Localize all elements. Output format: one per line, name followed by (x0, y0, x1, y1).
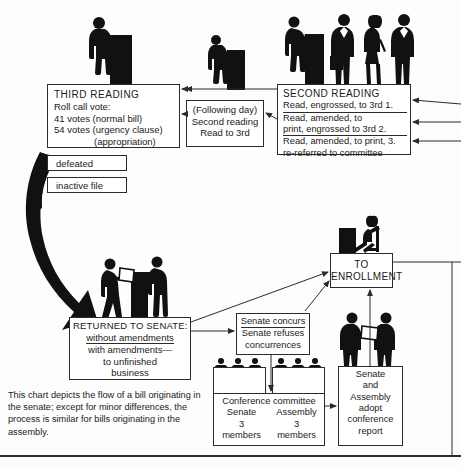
returned-to-senate-title: RETURNED TO SENATE: (70, 320, 190, 332)
third-reading-line3: 54 votes (urgency clause) (54, 124, 175, 136)
to-enrollment-line2: ENROLLMENT (331, 271, 392, 283)
adopt-report-line3: Assembly (339, 392, 402, 403)
second-reading-item2a: Read, amended, to (283, 113, 407, 124)
second-reading-item3b: re-referred to committee (283, 148, 407, 159)
second-reading-item2b: print, engrossed to 3rd 2. (283, 124, 407, 136)
following-day-line2: Second reading (187, 116, 263, 128)
conference-senate-chamber: Senate (214, 407, 269, 418)
bottom-divider (0, 455, 461, 457)
podium-speaker-silhouette (89, 17, 132, 84)
to-enrollment-line1: TO (331, 259, 392, 271)
second-reading-item3a: Read, amended, to print, 3. (283, 136, 407, 147)
returned-to-senate-line2: with amendments— (70, 344, 190, 356)
conference-assembly-column: Assembly 3 members (269, 407, 324, 441)
adopt-report-line6: report (339, 426, 402, 437)
podium-speaker-silhouette-center (208, 35, 245, 90)
following-day-box: (Following day) Second reading Read to 3… (186, 100, 264, 147)
following-day-line3: Read to 3rd (187, 127, 263, 139)
senate-concurrence-box: Senate concurs Senate refuses concurrenc… (236, 313, 310, 355)
conference-committee-title: Conference committee (214, 396, 324, 407)
returned-to-senate-line1: without amendments (86, 332, 174, 345)
handshake-pair-silhouette (340, 313, 395, 367)
defeated-box: defeated (47, 155, 127, 171)
conference-senate-count: 3 (214, 419, 269, 430)
senate-refuses-line2: Senate refuses (237, 328, 309, 339)
standing-legislators-silhouette (285, 14, 414, 84)
conference-committee-box: Conference committee Senate 3 members As… (213, 393, 325, 446)
second-reading-box: SECOND READING Read, engrossed, to 3rd 1… (277, 84, 411, 155)
inactive-file-box: inactive file (47, 177, 127, 193)
to-enrollment-box: TO ENROLLMENT (330, 253, 393, 288)
following-day-line1: (Following day) (187, 104, 263, 116)
adopt-report-line1: Senate (339, 369, 402, 380)
conference-assembly-chamber: Assembly (269, 407, 324, 418)
adopt-report-line4: adopt (339, 403, 402, 414)
adopt-conference-report-box: Senate and Assembly adopt conference rep… (338, 366, 403, 446)
third-reading-line2: 41 votes (normal bill) (54, 113, 175, 125)
returned-to-senate-line4: business (70, 367, 190, 379)
inactive-file-label: inactive file (56, 180, 103, 191)
concurrences-line3: concurrences (237, 340, 309, 351)
conference-senate-column: Senate 3 members (214, 407, 269, 441)
conference-senate-pedestal (213, 367, 266, 396)
third-reading-title: THIRD READING (54, 89, 175, 101)
second-reading-item1: Read, engrossed, to 3rd 1. (283, 100, 407, 112)
chart-caption: This chart depicts the flow of a bill or… (8, 389, 214, 438)
defeated-label: defeated (56, 158, 93, 169)
senate-concurs-line1: Senate concurs (241, 316, 306, 328)
clerk-at-desk-silhouette (339, 216, 380, 253)
second-reading-title: SECOND READING (283, 88, 407, 100)
conference-assembly-pedestal (272, 367, 325, 396)
adopt-report-line2: and (339, 380, 402, 391)
flowchart-page: THIRD READING Roll call vote: 41 votes (… (0, 0, 461, 468)
conference-senate-unit: members (214, 430, 269, 441)
conference-assembly-count: 3 (269, 419, 324, 430)
adopt-report-line5: conference (339, 414, 402, 425)
conference-assembly-unit: members (269, 430, 324, 441)
returned-to-senate-box: RETURNED TO SENATE: without amendments w… (69, 317, 191, 380)
third-reading-line1: Roll call vote: (54, 101, 175, 113)
returned-to-senate-line3: to unfinished (70, 356, 190, 368)
third-reading-box: THIRD READING Roll call vote: 41 votes (… (47, 84, 180, 148)
third-reading-line4: (appropriation) (54, 136, 175, 148)
clerk-pair-silhouette (101, 257, 168, 322)
